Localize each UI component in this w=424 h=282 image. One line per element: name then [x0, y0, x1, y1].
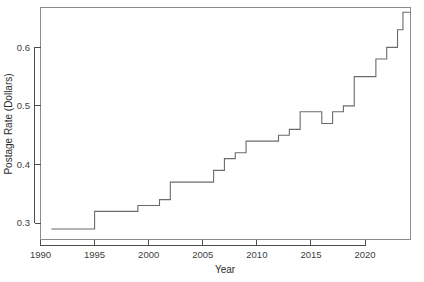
x-axis-ticks	[41, 240, 366, 246]
x-tick-label: 2005	[192, 249, 213, 260]
y-tick-label: 0.6	[17, 42, 30, 53]
chart-figure: 0.30.40.50.6 199019952000200520102015202…	[0, 0, 424, 282]
x-tick-label: 1990	[30, 249, 51, 260]
postage-rate-step-chart: 0.30.40.50.6 199019952000200520102015202…	[0, 0, 424, 282]
step-line-series	[51, 12, 410, 229]
x-tick-label: 1995	[84, 249, 105, 260]
x-axis-title: Year	[215, 264, 236, 275]
y-tick-label: 0.5	[17, 100, 30, 111]
y-tick-label: 0.3	[17, 217, 30, 228]
x-tick-label: 2020	[354, 249, 375, 260]
y-tick-label: 0.4	[17, 159, 30, 170]
y-axis-title: Postage Rate (Dollars)	[3, 73, 14, 174]
x-axis-tick-labels: 1990199520002005201020152020	[30, 249, 376, 260]
plot-panel-border	[41, 8, 411, 240]
x-tick-label: 2000	[138, 249, 159, 260]
y-axis-ticks	[35, 47, 41, 223]
x-tick-label: 2015	[300, 249, 321, 260]
x-tick-label: 2010	[246, 249, 267, 260]
y-axis-tick-labels: 0.30.40.50.6	[17, 42, 30, 229]
